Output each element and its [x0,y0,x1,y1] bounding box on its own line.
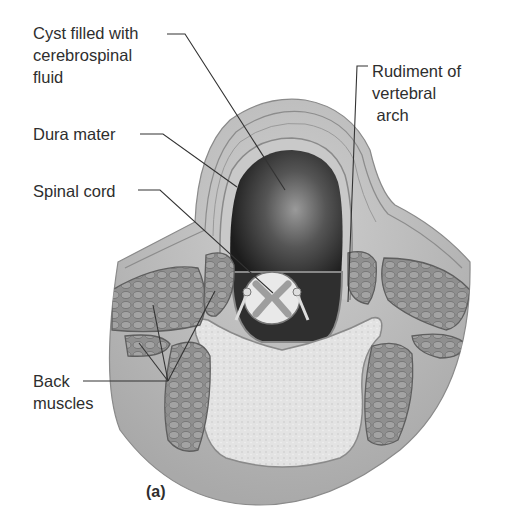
label-cyst: Cyst filled with cerebrospinal fluid [33,22,138,88]
label-cyst-line-3: fluid [33,66,138,88]
label-arch-line-3: arch [372,104,461,126]
label-muscles-line-1: Back [33,370,94,392]
label-arch-line-2: vertebral [372,82,461,104]
label-dura-mater: Dura mater [33,123,116,145]
label-back-muscles: Back muscles [33,370,94,414]
panel-label: (a) [146,483,166,501]
label-muscles-line-2: muscles [33,392,94,414]
label-cyst-line-1: Cyst filled with [33,22,138,44]
label-cyst-line-2: cerebrospinal [33,44,138,66]
spinal-canal [232,272,342,342]
label-vertebral-arch: Rudiment of vertebral arch [372,60,461,126]
cyst [230,150,342,292]
label-arch-line-1: Rudiment of [372,60,461,82]
label-spinal-cord: Spinal cord [33,180,116,202]
